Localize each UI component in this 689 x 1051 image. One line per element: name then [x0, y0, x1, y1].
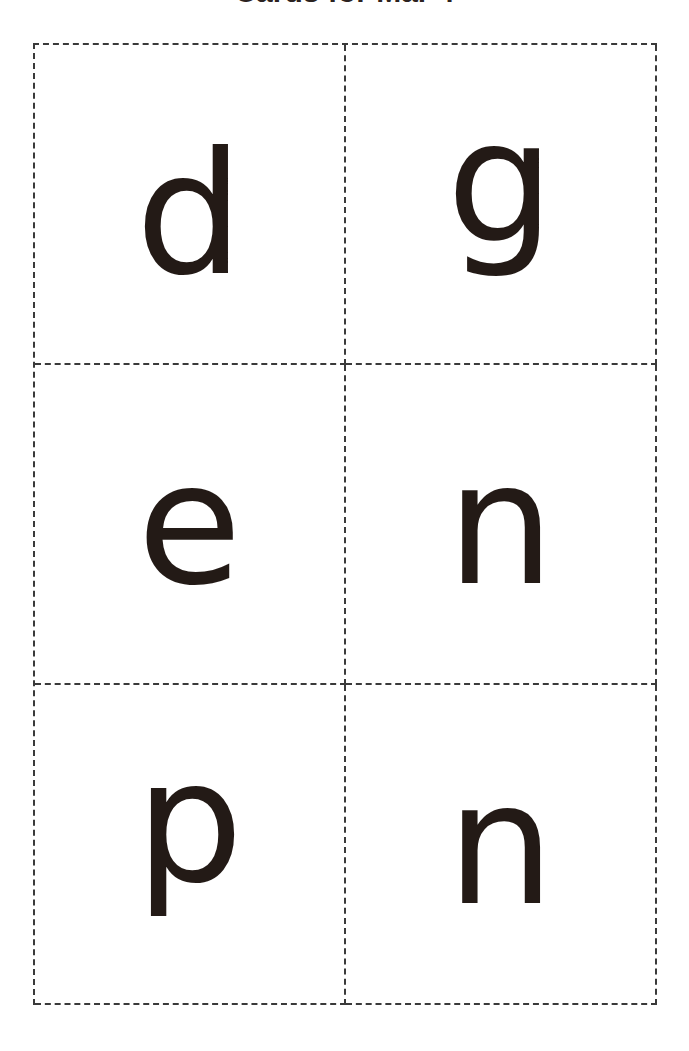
- card-letter: g: [447, 97, 555, 267]
- flashcard-sheet: Cards for Mar 4 d g e n p n: [0, 0, 689, 1051]
- card-letter: d: [136, 129, 244, 299]
- card-cell-6[interactable]: n: [346, 685, 657, 1005]
- card-cell-1[interactable]: d: [35, 45, 346, 365]
- card-letter: n: [447, 439, 555, 609]
- card-letter: e: [137, 439, 242, 609]
- card-letter: n: [447, 759, 555, 929]
- card-cell-3[interactable]: e: [35, 365, 346, 685]
- card-grid: d g e n p n: [33, 43, 657, 1005]
- card-cell-5[interactable]: p: [35, 685, 346, 1005]
- card-letter: p: [136, 737, 244, 907]
- page-title-clip: Cards for Mar 4: [0, 0, 689, 9]
- page-title: Cards for Mar 4: [0, 0, 689, 7]
- card-cell-4[interactable]: n: [346, 365, 657, 685]
- card-cell-2[interactable]: g: [346, 45, 657, 365]
